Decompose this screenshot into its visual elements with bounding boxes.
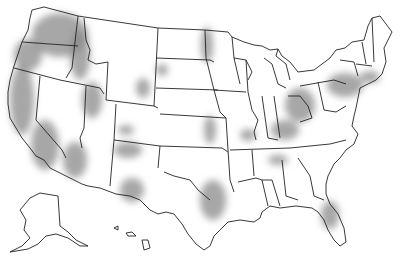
shaded-region-indiana-kentucky (271, 120, 299, 140)
shaded-region-ohio (285, 88, 315, 122)
us-map (0, 0, 408, 261)
shaded-region-florida-central (321, 201, 339, 229)
shaded-region-kansas-east (204, 116, 216, 144)
shaded-region-new-mexico-north (114, 142, 142, 158)
shaded-region-wyoming-east (136, 78, 150, 98)
shaded-region-arizona-west (63, 142, 87, 178)
shaded-region-texas-east (200, 180, 226, 220)
shaded-region-idaho-panhandle (70, 30, 90, 80)
shaded-region-western-oregon (14, 39, 42, 71)
shaded-region-north-dakota-east (201, 27, 213, 63)
shaded-region-southern-new-england (360, 71, 380, 83)
shaded-region-new-mexico-south (120, 178, 144, 202)
shaded-region-colorado-utah-south (118, 125, 134, 135)
shaded-region-missouri-central (240, 129, 256, 141)
shaded-region-south-dakota-west (156, 64, 168, 76)
shaded-region-southern-california (31, 120, 59, 170)
shaded-region-tennessee (268, 155, 288, 165)
shaded-region-pennsylvania-new-york (327, 73, 363, 97)
